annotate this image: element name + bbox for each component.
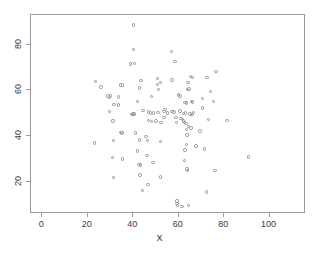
data-point xyxy=(214,70,217,73)
data-point xyxy=(146,139,149,142)
data-point xyxy=(117,103,120,106)
data-point xyxy=(201,97,204,100)
data-point xyxy=(130,113,133,116)
data-point xyxy=(156,111,159,114)
data-point xyxy=(108,110,111,113)
data-point xyxy=(170,78,173,81)
data-point xyxy=(154,119,157,122)
data-point xyxy=(180,205,183,208)
data-point xyxy=(185,128,188,131)
data-point xyxy=(191,76,194,79)
data-point xyxy=(185,143,188,146)
data-point xyxy=(94,80,97,83)
x-tick-label: 80 xyxy=(218,219,228,230)
data-point xyxy=(117,95,120,98)
data-point xyxy=(93,141,96,144)
data-point xyxy=(192,111,195,114)
y-tick-label: 80 xyxy=(13,37,24,51)
data-point xyxy=(141,109,144,112)
data-point xyxy=(203,147,206,150)
data-point xyxy=(150,95,153,98)
x-tick-mark xyxy=(223,213,224,217)
data-point xyxy=(151,161,154,164)
data-point xyxy=(111,119,114,122)
data-point xyxy=(139,163,142,166)
y-tick-mark xyxy=(26,135,30,136)
x-tick-mark xyxy=(178,213,179,217)
data-point xyxy=(159,81,162,84)
x-tick-label: 100 xyxy=(261,219,276,230)
data-point xyxy=(175,121,178,124)
data-point xyxy=(183,148,186,151)
scatter-plot-figure: 02040608010020406080 X xyxy=(0,0,319,256)
data-point xyxy=(99,85,102,88)
data-point xyxy=(112,139,115,142)
data-point xyxy=(178,94,181,97)
data-point xyxy=(129,62,132,65)
data-point xyxy=(133,62,136,65)
data-point xyxy=(141,189,144,192)
y-tick-mark xyxy=(26,89,30,90)
data-point xyxy=(112,103,115,106)
data-point xyxy=(186,81,189,84)
data-point xyxy=(189,126,192,129)
data-point xyxy=(183,159,186,162)
data-point xyxy=(201,106,204,109)
data-point xyxy=(184,111,187,114)
data-point xyxy=(159,121,162,124)
data-point xyxy=(109,94,112,97)
data-point xyxy=(139,79,142,82)
data-point xyxy=(207,118,210,121)
data-point xyxy=(156,83,159,86)
y-tick-label: 20 xyxy=(13,174,24,188)
data-point xyxy=(187,204,190,207)
data-point xyxy=(112,176,115,179)
data-point xyxy=(150,120,153,123)
x-tick-mark xyxy=(269,213,270,217)
data-point xyxy=(185,101,188,104)
data-point xyxy=(187,87,190,90)
data-point xyxy=(159,140,162,143)
data-point xyxy=(172,110,175,113)
data-point xyxy=(134,131,137,134)
x-tick-label: 40 xyxy=(127,219,137,230)
data-point xyxy=(145,154,148,157)
data-point xyxy=(174,116,177,119)
data-point xyxy=(111,156,114,159)
x-tick-mark xyxy=(41,213,42,217)
data-point xyxy=(194,144,197,147)
data-point xyxy=(205,190,208,193)
data-point xyxy=(132,48,135,51)
data-point xyxy=(185,133,188,136)
data-point xyxy=(166,111,169,114)
data-point xyxy=(121,157,124,160)
data-point xyxy=(136,149,139,152)
x-tick-mark xyxy=(132,213,133,217)
x-tick-mark xyxy=(87,213,88,217)
data-point xyxy=(144,135,147,138)
data-point xyxy=(191,100,194,103)
data-point xyxy=(247,155,250,158)
y-tick-label: 40 xyxy=(13,128,24,142)
data-point xyxy=(132,23,135,26)
data-point xyxy=(225,119,228,122)
y-tick-mark xyxy=(26,44,30,45)
x-axis-label: X xyxy=(0,233,319,243)
x-tick-label: 60 xyxy=(173,219,183,230)
data-point xyxy=(176,204,179,207)
data-point xyxy=(173,60,176,63)
data-point xyxy=(159,175,162,178)
data-point xyxy=(121,83,124,86)
x-tick-label: 0 xyxy=(39,219,44,230)
plot-area xyxy=(30,14,305,213)
data-point xyxy=(138,173,141,176)
y-tick-mark xyxy=(26,181,30,182)
data-point xyxy=(136,100,139,103)
y-tick-label: 60 xyxy=(13,82,24,96)
data-point xyxy=(209,90,212,93)
data-point xyxy=(205,76,208,79)
data-point xyxy=(138,138,141,141)
x-tick-label: 20 xyxy=(82,219,92,230)
data-point xyxy=(213,169,216,172)
data-point xyxy=(198,129,201,132)
